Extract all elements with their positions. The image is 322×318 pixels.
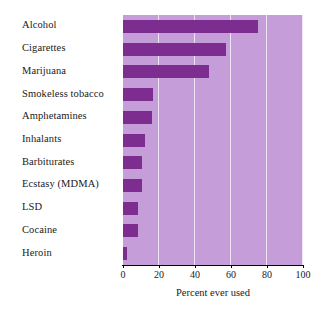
tick-label-40: 40 [190,269,200,280]
tick-label-100: 100 [296,269,311,280]
tick-label-80: 80 [262,269,272,280]
category-label: Ecstasy (MDMA) [0,179,110,190]
category-label: Amphetamines [0,111,110,122]
category-label: Smokeless tobacco [0,89,110,100]
bar [123,202,138,215]
x-axis: 020406080100 [123,265,303,285]
gridline-60 [230,15,231,265]
category-label: Barbiturates [0,157,110,168]
gridline-80 [266,15,267,265]
bar [123,156,142,169]
category-label: Inhalants [0,134,110,145]
tick-mark-80 [267,265,268,268]
tick-mark-0 [123,265,124,268]
category-label: Marijuana [0,66,110,77]
tick-mark-60 [231,265,232,268]
tick-label-0: 0 [121,269,126,280]
category-label: Cocaine [0,225,110,236]
bar [123,20,258,33]
tick-mark-20 [159,265,160,268]
tick-mark-40 [195,265,196,268]
category-axis: AlcoholCigarettesMarijuanaSmokeless toba… [0,15,116,265]
category-label: LSD [0,202,110,213]
bar [123,134,145,147]
bar [123,224,138,237]
tick-mark-100 [303,265,304,268]
plot-area [123,15,303,265]
bar [123,179,142,192]
bar [123,111,152,124]
bar [123,65,209,78]
category-label: Cigarettes [0,43,110,54]
bar-chart: AlcoholCigarettesMarijuanaSmokeless toba… [0,0,322,318]
category-label: Heroin [0,248,110,259]
gridline-100 [302,15,303,265]
bar [123,247,127,260]
tick-label-20: 20 [154,269,164,280]
category-label: Alcohol [0,20,110,31]
x-axis-title: Percent ever used [123,287,303,298]
bar [123,43,226,56]
bar [123,88,153,101]
tick-label-60: 60 [226,269,236,280]
x-axis-line [122,265,304,266]
